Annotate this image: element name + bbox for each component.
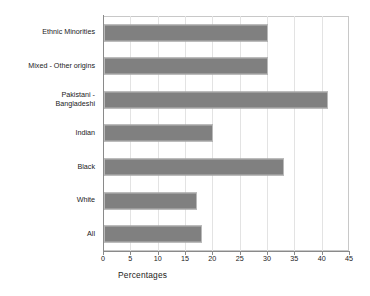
- category-label: Pakistani - Bangladeshi: [0, 83, 99, 117]
- bar[interactable]: [104, 125, 213, 142]
- x-tick-label: 30: [263, 254, 271, 263]
- x-tick-label: 40: [318, 254, 326, 263]
- x-tick-label: 45: [345, 254, 353, 263]
- bar[interactable]: [104, 226, 202, 243]
- x-tick-label: 0: [101, 254, 105, 263]
- bar-row: [104, 217, 349, 251]
- category-label: Black: [0, 150, 99, 184]
- bar-row: [104, 117, 349, 151]
- bar[interactable]: [104, 24, 268, 41]
- x-axis-line: [103, 251, 350, 252]
- bar[interactable]: [104, 91, 328, 108]
- category-label: Indian: [0, 117, 99, 151]
- bar-row: [104, 83, 349, 117]
- x-tick-label: 15: [181, 254, 189, 263]
- bar[interactable]: [104, 58, 268, 75]
- bar-row: [104, 16, 349, 50]
- bar-row: [104, 184, 349, 218]
- bar[interactable]: [104, 159, 284, 176]
- category-label: All: [0, 217, 99, 251]
- bar-chart: Ethnic MinoritiesMixed - Other originsPa…: [0, 0, 370, 296]
- category-label: Mixed - Other origins: [0, 50, 99, 84]
- bar[interactable]: [104, 192, 197, 209]
- x-tick-label: 35: [290, 254, 298, 263]
- x-tick-label: 10: [154, 254, 162, 263]
- category-axis-labels: Ethnic MinoritiesMixed - Other originsPa…: [0, 16, 99, 251]
- category-label: White: [0, 184, 99, 218]
- x-tick-label: 5: [128, 254, 132, 263]
- x-axis-title: Percentages: [118, 270, 167, 280]
- bars-layer: [104, 16, 349, 251]
- category-label: Ethnic Minorities: [0, 16, 99, 50]
- bar-row: [104, 150, 349, 184]
- x-tick-label: 25: [236, 254, 244, 263]
- x-tick-label: 20: [208, 254, 216, 263]
- bar-row: [104, 50, 349, 84]
- x-axis-tick-labels: 051015202530354045: [0, 254, 370, 266]
